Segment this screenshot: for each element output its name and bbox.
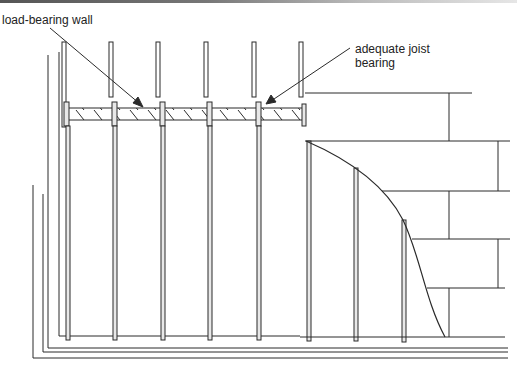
joist-beam — [66, 108, 304, 120]
lower-studs — [66, 126, 406, 342]
label-load-bearing-wall: load-bearing wall — [2, 13, 93, 27]
leader-lines — [50, 28, 350, 107]
wall-framing-diagram — [0, 0, 517, 373]
label-adequate-joist-bearing: adequate joist bearing — [355, 42, 430, 70]
